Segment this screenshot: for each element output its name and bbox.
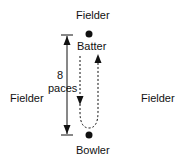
arrow-up-icon <box>64 36 71 45</box>
fielder-left-label: Fielder <box>10 92 44 104</box>
arrow-up-icon <box>95 54 102 63</box>
fielder-right-label: Fielder <box>141 92 175 104</box>
arrow-down-icon <box>77 96 84 105</box>
arrow-down-icon <box>64 125 71 134</box>
fielder-top-label: Fielder <box>76 9 110 21</box>
bowler-dot <box>86 132 93 139</box>
batter-label: Batter <box>77 40 106 52</box>
cricket-fielding-diagram: Fielder Batter 8 paces Fielder Fielder B… <box>0 0 178 161</box>
distance-unit-label: paces <box>48 82 77 94</box>
distance-number-label: 8 <box>57 69 63 81</box>
bowler-label: Bowler <box>76 144 110 156</box>
batter-dot <box>86 31 93 38</box>
diagram-graphics <box>0 0 178 161</box>
ball-path <box>77 54 102 128</box>
